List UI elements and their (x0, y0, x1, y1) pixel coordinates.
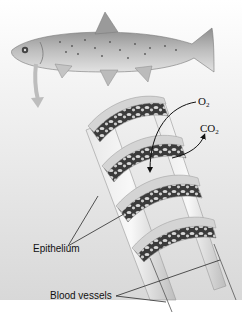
gill-diagram (0, 0, 242, 317)
blood-vessels-label: Blood vessels (50, 290, 112, 301)
oxygen-label: O2 (198, 95, 209, 109)
co2-label: CO2 (200, 122, 219, 136)
epithelium-label: Epithelium (33, 243, 80, 254)
